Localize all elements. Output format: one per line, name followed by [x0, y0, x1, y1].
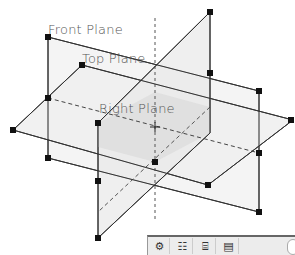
- display-manager-icon[interactable]: ▤: [219, 238, 239, 254]
- feature-manager-icon[interactable]: ⚙: [150, 238, 170, 254]
- property-manager-icon[interactable]: ☷: [173, 238, 193, 254]
- planes-drawing: [0, 0, 295, 255]
- top-plane-label[interactable]: Top Plane: [82, 51, 146, 66]
- manager-tabs-toolbar: ⚙ ☷ ⌸ ▤: [147, 235, 295, 255]
- front-plane-label[interactable]: Front Plane: [48, 22, 123, 37]
- graphics-viewport[interactable]: Front Plane Top Plane Right Plane: [0, 0, 295, 255]
- toolbar-scroll-icon[interactable]: [287, 239, 295, 255]
- configuration-manager-icon[interactable]: ⌸: [196, 238, 216, 254]
- right-plane-label[interactable]: Right Plane: [99, 101, 175, 116]
